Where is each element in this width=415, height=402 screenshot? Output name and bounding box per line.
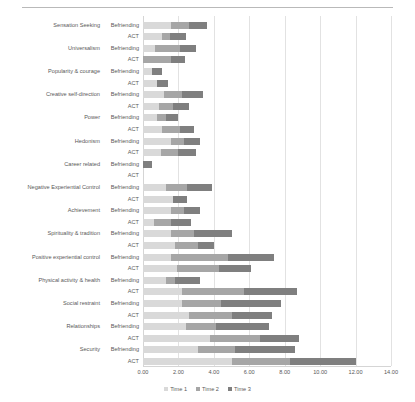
bar-segment-time-1: [143, 254, 171, 261]
bar-segment-time-1: [143, 68, 152, 75]
legend-item-time-3[interactable]: Time 3: [228, 386, 251, 392]
category-label: Hedonism: [0, 138, 100, 145]
bar-row: [143, 56, 391, 63]
bar-segment-time-1: [143, 184, 166, 191]
x-tick-label: 0.00: [138, 368, 149, 377]
bar-segment-time-3: [178, 149, 196, 156]
bar-segment-time-1: [143, 277, 166, 284]
bar-row: [143, 312, 391, 319]
bar-rows: [143, 16, 391, 366]
bar-segment-time-3: [170, 33, 186, 40]
bar-segment-time-2: [164, 91, 182, 98]
bar-row: [143, 335, 391, 342]
bar-segment-time-1: [143, 312, 189, 319]
x-tick-label: 10.00: [313, 368, 327, 377]
bar-row: [143, 161, 391, 168]
group-label: ACT: [103, 288, 139, 295]
group-label: Befriending: [103, 323, 139, 330]
bar-row: [143, 207, 391, 214]
group-label: Befriending: [103, 207, 139, 214]
bar-segment-time-3: [189, 22, 207, 29]
bar-segment-time-1: [143, 33, 162, 40]
header-divider: [22, 7, 393, 8]
group-label: ACT: [103, 103, 139, 110]
bar-row: [143, 196, 391, 203]
bar-segment-time-3: [216, 323, 269, 330]
group-label: Befriending: [103, 300, 139, 307]
bar-row: [143, 265, 391, 272]
group-label: ACT: [103, 149, 139, 156]
x-tick-label: 8.00: [279, 368, 290, 377]
category-label: Physical activity & health: [0, 277, 100, 284]
bar-segment-time-2: [171, 138, 183, 145]
x-tick-label: 4.00: [208, 368, 219, 377]
group-label: Befriending: [103, 277, 139, 284]
group-label: Befriending: [103, 161, 139, 168]
bar-row: [143, 277, 391, 284]
category-axis-labels: Sensation SeekingUniversalismPopularity …: [0, 16, 100, 366]
bar-segment-time-1: [143, 103, 159, 110]
plot-area: [143, 16, 391, 366]
group-label: ACT: [103, 312, 139, 319]
bar-segment-time-2: [210, 335, 260, 342]
x-tick-label: 14.00: [384, 368, 398, 377]
chart-legend: Time 1Time 2Time 3: [0, 386, 415, 392]
group-axis-labels: BefriendingACTBefriendingACTBefriendingA…: [103, 16, 139, 366]
bar-row: [143, 219, 391, 226]
bar-segment-time-3: [166, 114, 178, 121]
bar-segment-time-2: [162, 33, 169, 40]
bar-segment-time-3: [171, 56, 185, 63]
bar-segment-time-2: [182, 300, 221, 307]
bar-row: [143, 358, 391, 365]
group-label: ACT: [103, 196, 139, 203]
bar-segment-time-1: [143, 265, 177, 272]
bar-row: [143, 45, 391, 52]
bar-segment-time-3: [152, 68, 163, 75]
bar-segment-time-3: [244, 288, 297, 295]
legend-item-time-2[interactable]: Time 2: [196, 386, 219, 392]
bar-segment-time-2: [166, 184, 187, 191]
legend-label: Time 3: [234, 386, 251, 392]
group-label: ACT: [103, 80, 139, 87]
legend-swatch-icon: [196, 387, 200, 391]
bar-segment-time-3: [143, 161, 152, 168]
bar-segment-time-1: [143, 149, 161, 156]
bar-segment-time-2: [182, 288, 244, 295]
category-label: Spirituality & tradition: [0, 230, 100, 237]
bar-segment-time-2: [198, 346, 235, 353]
bar-row: [143, 138, 391, 145]
bar-segment-time-1: [143, 196, 173, 203]
group-label: Befriending: [103, 91, 139, 98]
gridline-14.00: [391, 16, 392, 366]
bar-segment-time-2: [159, 103, 173, 110]
bar-row: [143, 126, 391, 133]
bar-segment-time-1: [143, 207, 171, 214]
bar-row: [143, 80, 391, 87]
bar-segment-time-3: [194, 230, 231, 237]
bar-segment-time-3: [157, 80, 168, 87]
legend-swatch-icon: [164, 387, 168, 391]
bar-segment-time-2: [189, 312, 232, 319]
group-label: ACT: [103, 126, 139, 133]
bar-segment-time-2: [154, 219, 172, 226]
bar-segment-time-3: [260, 335, 299, 342]
bar-segment-time-3: [180, 126, 194, 133]
category-label: Power: [0, 114, 100, 121]
bar-segment-time-1: [143, 300, 182, 307]
group-label: Befriending: [103, 254, 139, 261]
legend-item-time-1[interactable]: Time 1: [164, 386, 187, 392]
bar-segment-time-3: [182, 91, 203, 98]
bar-segment-time-3: [221, 300, 281, 307]
bar-segment-time-3: [235, 346, 295, 353]
bar-segment-time-2: [171, 207, 183, 214]
legend-swatch-icon: [228, 387, 232, 391]
legend-label: Time 2: [202, 386, 219, 392]
category-label: Career related: [0, 161, 100, 168]
group-label: Befriending: [103, 184, 139, 191]
category-label: Popularity & courage: [0, 68, 100, 75]
bar-row: [143, 230, 391, 237]
bar-segment-time-1: [143, 288, 182, 295]
bar-segment-time-1: [143, 80, 157, 87]
bar-row: [143, 184, 391, 191]
bar-segment-time-1: [143, 346, 198, 353]
